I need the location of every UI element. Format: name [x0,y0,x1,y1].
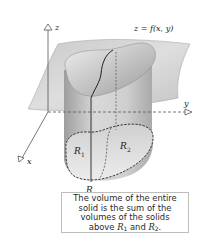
svg-text:R: R [119,141,127,151]
svg-text:1: 1 [81,151,85,158]
y-axis-label: y [183,99,189,108]
x-axis-label: x [27,157,32,166]
x-axis-arrowhead [18,156,24,162]
caption-line-4: above R1 and R2. [62,223,188,233]
svg-text:R: R [73,146,81,156]
x-axis [22,112,48,158]
z-axis-label: z [54,23,60,32]
surface-label: z = f(x, y) [133,24,173,33]
z-axis-arrowhead [44,24,52,30]
caption-line-3: volumes of the solids [62,213,188,223]
svg-text:2: 2 [127,146,131,153]
caption-box: The volume of the entire solid is the su… [61,192,189,233]
y-axis-arrowhead [185,109,192,115]
